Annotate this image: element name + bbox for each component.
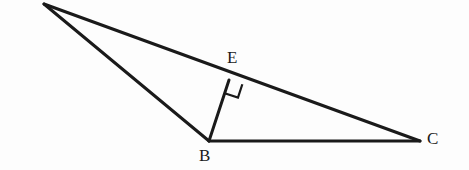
segment-BE <box>209 80 229 141</box>
geometry-figure: E B C <box>0 0 469 170</box>
geometry-canvas <box>0 0 469 170</box>
segment-AC <box>44 4 420 141</box>
segment-AB <box>44 4 209 141</box>
vertex-label-E: E <box>227 49 237 66</box>
vertex-label-B: B <box>199 147 210 164</box>
vertex-label-C: C <box>427 130 438 147</box>
